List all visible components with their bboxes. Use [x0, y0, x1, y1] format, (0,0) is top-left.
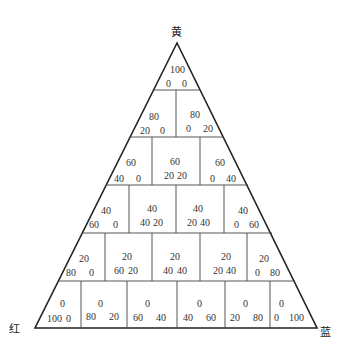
- svg-text:40: 40: [163, 265, 173, 276]
- svg-text:20: 20: [122, 251, 132, 262]
- svg-text:20: 20: [177, 170, 187, 181]
- svg-text:60: 60: [89, 219, 99, 230]
- svg-text:100: 100: [289, 312, 304, 323]
- svg-text:0: 0: [210, 173, 215, 184]
- svg-text:0: 0: [60, 298, 65, 309]
- svg-text:0: 0: [98, 298, 103, 309]
- svg-text:60: 60: [249, 219, 259, 230]
- vertex-label-red: 红: [9, 323, 20, 336]
- svg-text:60: 60: [170, 156, 180, 167]
- svg-text:0: 0: [66, 313, 71, 324]
- cell-20-40-40: 20 40 40: [163, 251, 187, 276]
- svg-text:40: 40: [183, 312, 193, 323]
- svg-text:60: 60: [206, 312, 216, 323]
- svg-text:80: 80: [86, 311, 96, 322]
- cell-80-20-0: 80 20 0: [140, 111, 165, 136]
- svg-text:100: 100: [170, 64, 185, 75]
- svg-text:40: 40: [226, 173, 236, 184]
- svg-text:40: 40: [156, 312, 166, 323]
- svg-text:40: 40: [193, 203, 203, 214]
- svg-text:80: 80: [190, 109, 200, 120]
- svg-text:20: 20: [153, 217, 163, 228]
- svg-text:20: 20: [140, 125, 150, 136]
- svg-text:20: 20: [213, 265, 223, 276]
- svg-text:60: 60: [126, 157, 136, 168]
- svg-text:40: 40: [238, 205, 248, 216]
- svg-text:20: 20: [203, 123, 213, 134]
- cell-0-0-100: 0 0 100: [274, 298, 304, 323]
- cell-0-20-80: 0 20 80: [230, 298, 263, 323]
- svg-text:0: 0: [197, 298, 202, 309]
- svg-text:80: 80: [270, 267, 280, 278]
- svg-text:40: 40: [101, 205, 111, 216]
- svg-text:0: 0: [234, 219, 239, 230]
- svg-text:0: 0: [182, 78, 187, 89]
- svg-text:40: 40: [200, 217, 210, 228]
- cell-80-0-20: 80 0 20: [186, 109, 213, 134]
- svg-text:20: 20: [221, 251, 231, 262]
- cell-60-20-20: 60 20 20: [164, 156, 187, 181]
- cell-40-40-20: 40 40 20: [140, 203, 163, 228]
- cell-20-20-40: 20 20 40: [213, 251, 236, 276]
- cell-0-60-40: 0 60 40: [133, 298, 166, 323]
- svg-text:80: 80: [149, 111, 159, 122]
- svg-text:60: 60: [133, 312, 143, 323]
- svg-text:0: 0: [243, 298, 248, 309]
- svg-text:20: 20: [187, 217, 197, 228]
- cell-40-60-0: 40 60 0: [89, 205, 118, 230]
- svg-text:20: 20: [79, 253, 89, 264]
- svg-text:80: 80: [253, 312, 263, 323]
- svg-text:80: 80: [66, 267, 76, 278]
- svg-text:20: 20: [259, 253, 269, 264]
- svg-text:0: 0: [89, 267, 94, 278]
- svg-text:60: 60: [215, 157, 225, 168]
- vertex-label-blue: 蓝: [320, 326, 331, 339]
- svg-text:0: 0: [186, 123, 191, 134]
- svg-text:20: 20: [170, 251, 180, 262]
- svg-text:0: 0: [113, 219, 118, 230]
- svg-text:100: 100: [47, 313, 62, 324]
- svg-text:0: 0: [136, 173, 141, 184]
- svg-text:40: 40: [114, 173, 124, 184]
- svg-text:0: 0: [279, 298, 284, 309]
- cell-20-60-20: 20 60 20: [114, 251, 138, 276]
- svg-text:40: 40: [140, 217, 150, 228]
- cell-20-0-80: 20 0 80: [255, 253, 280, 278]
- svg-text:20: 20: [109, 311, 119, 322]
- ternary-diagram: 黄 红 蓝 100 0 0 80 20 0: [0, 0, 349, 349]
- svg-text:40: 40: [226, 265, 236, 276]
- svg-text:0: 0: [160, 125, 165, 136]
- cell-100-0-0: 100 0 0: [166, 64, 187, 89]
- svg-text:20: 20: [230, 312, 240, 323]
- svg-text:0: 0: [166, 78, 171, 89]
- cell-40-20-40: 40 20 40: [187, 203, 210, 228]
- svg-text:40: 40: [177, 265, 187, 276]
- svg-text:20: 20: [164, 170, 174, 181]
- svg-text:60: 60: [114, 265, 124, 276]
- vertex-label-yellow: 黄: [171, 25, 182, 39]
- svg-text:0: 0: [274, 312, 279, 323]
- svg-text:20: 20: [128, 265, 138, 276]
- svg-text:0: 0: [145, 298, 150, 309]
- svg-text:0: 0: [255, 267, 260, 278]
- cell-0-40-60: 0 40 60: [183, 298, 216, 323]
- svg-text:40: 40: [147, 203, 157, 214]
- cell-0-80-20: 0 80 20: [86, 298, 119, 322]
- cell-60-0-40: 60 0 40: [210, 157, 236, 184]
- cell-0-100-0: 0 100 0: [47, 298, 71, 324]
- cell-40-0-60: 40 0 60: [234, 205, 259, 230]
